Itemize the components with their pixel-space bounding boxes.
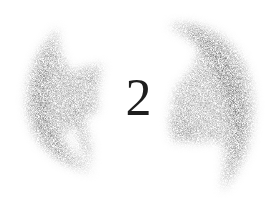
chapter-number: 2: [0, 68, 277, 128]
chapter-heading: 2: [0, 0, 277, 208]
